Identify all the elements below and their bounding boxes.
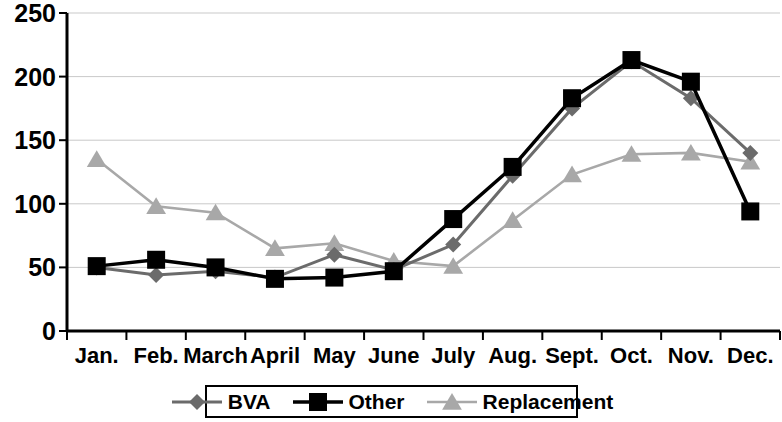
y-axis-tick-label: 200 [0,65,56,90]
legend-label: Other [349,391,405,412]
data-point-marker [325,269,343,287]
data-point-marker [87,150,107,167]
legend-label: BVA [228,391,271,412]
data-point-marker [504,158,522,176]
data-point-marker [562,166,582,183]
data-point-marker [189,394,205,410]
line-chart: 250200150100500 Jan.Feb.MarchAprilMayJun… [0,0,782,422]
y-axis-tick-label: 150 [0,128,56,153]
data-point-marker [682,73,700,91]
triangle-marker-icon [425,391,479,413]
data-point-marker [148,267,164,283]
series-replacement [87,144,760,274]
data-point-marker [563,89,581,107]
diamond-marker-icon [170,391,224,413]
series-other [88,51,760,288]
legend-item-replacement: Replacement [425,391,614,413]
data-point-marker [741,202,759,220]
y-axis-tick-label: 0 [0,319,56,344]
y-axis-tick-label: 250 [0,1,56,26]
data-point-marker [309,393,327,411]
data-point-marker [444,210,462,228]
data-point-marker [147,251,165,269]
data-point-marker [207,258,225,276]
series-line [97,60,751,279]
data-point-marker [88,257,106,275]
y-axis-tick-label: 50 [0,255,56,280]
axis-lines [67,13,780,332]
gridlines [67,13,780,267]
data-point-marker [622,51,640,69]
data-point-marker [385,262,403,280]
x-axis-tick-label: Dec. [700,345,782,367]
series-line [97,153,751,266]
series-bva [89,53,759,285]
legend-label: Replacement [483,391,614,412]
square-marker-icon [291,391,345,413]
data-series-layer [87,51,760,288]
legend-item-other: Other [291,391,405,413]
y-axis-tick-label: 100 [0,192,56,217]
legend-item-bva: BVA [170,391,271,413]
data-point-marker [266,270,284,288]
chart-legend: BVAOtherReplacement [205,385,578,418]
